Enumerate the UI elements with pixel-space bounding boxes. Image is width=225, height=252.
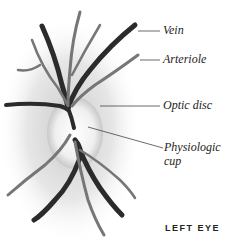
label-physiologic-cup-line1: Physiologic [164,141,221,154]
caption-left-eye: LEFT EYE [165,223,220,233]
label-physiologic-cup-line2: cup [164,155,181,168]
label-optic-disc: Optic disc [163,99,212,112]
optic-disc-illustration [0,0,225,252]
label-arteriole: Arteriole [163,53,206,66]
label-vein: Vein [163,24,184,37]
